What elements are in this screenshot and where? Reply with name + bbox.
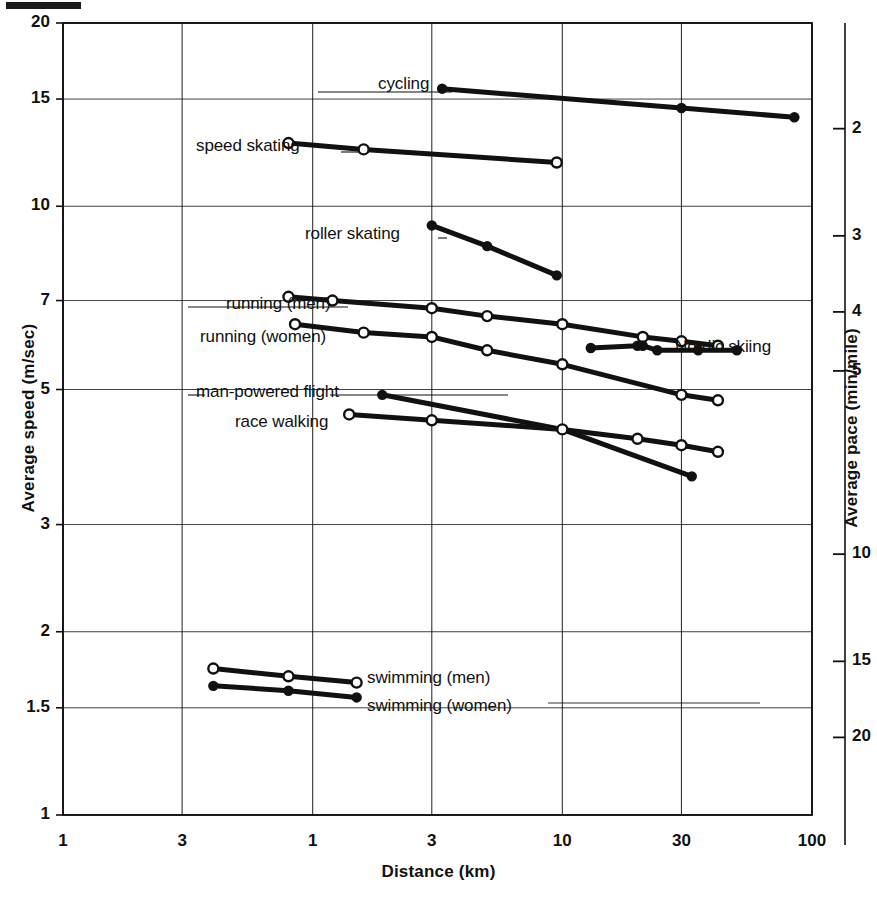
x-tick-label-4: 10 xyxy=(532,831,592,851)
series-label-running-women: running (women) xyxy=(200,327,326,347)
series-label-race-walking: race walking xyxy=(235,412,328,432)
x-tick-label-1: 3 xyxy=(152,831,212,851)
series-label-nordic-skiing: Nordic skiing xyxy=(675,337,771,357)
y-axis-title: Average speed (m/sec) xyxy=(19,303,39,533)
axis-frame xyxy=(63,23,845,845)
y2-tick-label-5: 15 xyxy=(852,650,877,670)
y2-tick-label-0: 2 xyxy=(852,118,877,138)
x-axis-title: Distance (km) xyxy=(0,862,877,882)
series-speed-skating xyxy=(283,138,561,167)
y2-tick-label-6: 20 xyxy=(852,726,877,746)
series-cycling xyxy=(437,83,800,122)
figure-canvas: Average speed (m/sec) Average pace (min/… xyxy=(0,0,877,905)
series-label-cycling: cycling xyxy=(378,74,429,94)
y-tick-label-3: 3 xyxy=(0,514,50,534)
series-man-powered-flight xyxy=(377,390,697,482)
series-label-swimming-men: swimming (men) xyxy=(367,668,490,688)
y2-tick-label-3: 5 xyxy=(852,360,877,380)
y-tick-label-8: 20 xyxy=(0,12,50,32)
series-label-speed-skating: speed skating xyxy=(196,136,300,156)
y2-tick-label-4: 10 xyxy=(852,543,877,563)
series-swimming-women xyxy=(208,681,362,703)
y-tick-label-6: 10 xyxy=(0,195,50,215)
y2-tick-label-1: 3 xyxy=(852,225,877,245)
x-tick-label-2: 1 xyxy=(283,831,343,851)
y-tick-label-4: 5 xyxy=(0,379,50,399)
y-tick-label-2: 2 xyxy=(0,621,50,641)
series-label-running-men: running (men) xyxy=(226,294,331,314)
x-tick-label-0: 1 xyxy=(33,831,93,851)
x-tick-label-5: 30 xyxy=(651,831,711,851)
x-tick-label-6: 100 xyxy=(782,831,842,851)
series-label-roller-skating: roller skating xyxy=(305,224,400,244)
series-roller-skating xyxy=(427,220,562,280)
x-tick-label-3: 3 xyxy=(402,831,462,851)
y2-axis-title: Average pace (min/mile) xyxy=(842,313,862,543)
series-race-walking xyxy=(344,409,723,456)
y-tick-label-0: 1 xyxy=(0,804,50,824)
series-label-swimming-women: swimming (women) xyxy=(367,696,512,716)
chart-plot-area xyxy=(0,0,877,905)
series-running-women xyxy=(290,319,723,405)
y-tick-label-1: 1.5 xyxy=(0,697,50,717)
y-tick-label-5: 7 xyxy=(0,290,50,310)
series-swimming-men xyxy=(208,664,361,688)
y2-tick-label-2: 4 xyxy=(852,301,877,321)
series-label-man-powered-flight: man-powered flight xyxy=(196,382,339,402)
y-tick-label-7: 15 xyxy=(0,88,50,108)
